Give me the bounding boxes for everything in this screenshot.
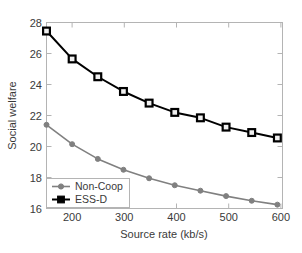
chart-legend: Non-Coop ESS-D xyxy=(47,179,130,208)
circle-marker xyxy=(44,122,49,127)
square-marker xyxy=(94,73,101,80)
square-marker xyxy=(171,109,178,116)
circle-marker xyxy=(95,156,100,161)
square-marker xyxy=(274,135,281,142)
square-marker xyxy=(69,56,76,63)
circle-marker xyxy=(198,188,203,193)
legend-label-non-coop: Non-Coop xyxy=(75,180,123,192)
square-marker xyxy=(223,124,230,131)
legend-label-ess-d: ESS-D xyxy=(75,193,108,205)
y-tick-label-22: 22 xyxy=(30,110,42,122)
circle-marker xyxy=(70,142,75,147)
y-tick-label-18: 18 xyxy=(30,172,42,184)
circle-marker-icon xyxy=(58,184,63,189)
square-marker-icon xyxy=(58,196,65,203)
x-tick-label-500: 500 xyxy=(220,211,238,223)
y-tick-label-16: 16 xyxy=(30,203,42,215)
circle-marker xyxy=(147,176,152,181)
circle-marker xyxy=(172,183,177,188)
y-tick-label-28: 28 xyxy=(30,17,42,29)
x-tick-label-600: 600 xyxy=(272,211,290,223)
circle-marker xyxy=(249,198,254,203)
social-welfare-line-chart: 28 26 24 22 20 18 16 200 300 400 500 600… xyxy=(0,0,302,253)
circle-marker xyxy=(224,194,229,199)
circle-marker xyxy=(275,202,280,207)
square-marker xyxy=(146,100,153,107)
y-tick-label-20: 20 xyxy=(30,141,42,153)
square-marker xyxy=(197,114,204,121)
x-tick-label-300: 300 xyxy=(115,211,133,223)
x-tick-label-200: 200 xyxy=(63,211,81,223)
square-marker xyxy=(120,88,127,95)
square-marker xyxy=(248,129,255,136)
x-tick-label-400: 400 xyxy=(167,211,185,223)
square-marker xyxy=(43,28,50,35)
y-axis-title: Social welfare xyxy=(6,81,18,149)
chart-figure: 28 26 24 22 20 18 16 200 300 400 500 600… xyxy=(0,0,302,253)
y-tick-label-24: 24 xyxy=(30,79,42,91)
y-tick-label-26: 26 xyxy=(30,48,42,60)
circle-marker xyxy=(121,167,126,172)
x-axis-title: Source rate (kb/s) xyxy=(120,228,207,240)
